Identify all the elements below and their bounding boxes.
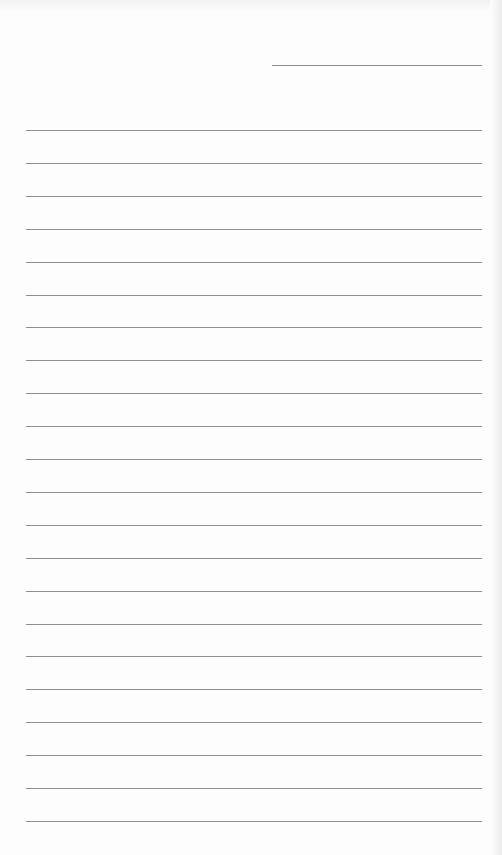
ruled-line [26,426,482,427]
ruled-line [26,788,482,789]
ruled-line [26,525,482,526]
page-edge-shading [490,0,502,855]
ruled-line [26,327,482,328]
ruled-line [26,591,482,592]
ruled-line [26,163,482,164]
ruled-line [26,393,482,394]
ruled-line [26,656,482,657]
ruled-line [26,196,482,197]
ruled-line [26,262,482,263]
ruled-line [26,459,482,460]
ruled-line [26,295,482,296]
ruled-line [26,130,482,131]
ruled-line [26,722,482,723]
ruled-line [26,360,482,361]
ruled-line [26,229,482,230]
ruled-line [26,492,482,493]
ruled-line [26,624,482,625]
date-line [272,65,482,66]
ruled-line [26,821,482,822]
ruled-line [26,558,482,559]
ruled-line [26,755,482,756]
page-top-shading [0,0,502,12]
ruled-line [26,689,482,690]
